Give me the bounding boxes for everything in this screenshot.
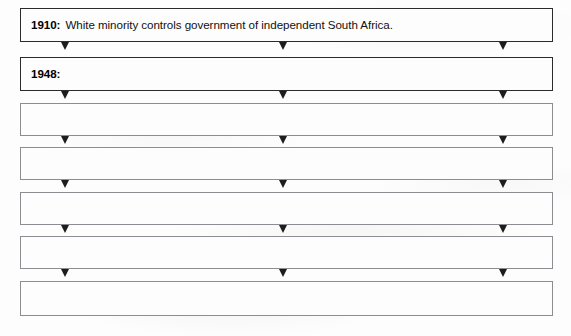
flow-connector: [0, 42, 571, 56]
timeline-year-label: 1948:: [31, 67, 60, 80]
arrow-down-icon: [61, 180, 69, 188]
arrow-down-icon: [61, 91, 69, 99]
timeline-step-box[interactable]: [20, 192, 553, 225]
timeline-step-text: 1910:White minority controls government …: [21, 18, 393, 32]
arrow-down-icon: [279, 225, 287, 233]
timeline-step-box[interactable]: [20, 281, 553, 316]
timeline-step-text: 1948:: [21, 67, 65, 81]
timeline-step-box[interactable]: [20, 147, 553, 180]
arrow-down-icon: [61, 42, 69, 50]
arrow-down-icon: [499, 136, 507, 144]
arrow-down-icon: [279, 269, 287, 277]
timeline-flow-chart: 1910:White minority controls government …: [0, 0, 571, 336]
timeline-step-description: White minority controls government of in…: [65, 18, 392, 31]
timeline-step-box[interactable]: [20, 236, 553, 269]
arrow-down-icon: [499, 180, 507, 188]
arrow-down-icon: [61, 136, 69, 144]
arrow-down-icon: [499, 269, 507, 277]
arrow-down-icon: [499, 91, 507, 99]
arrow-down-icon: [279, 42, 287, 50]
arrow-down-icon: [499, 42, 507, 50]
arrow-down-icon: [499, 225, 507, 233]
arrow-down-icon: [279, 180, 287, 188]
timeline-year-label: 1910:: [31, 18, 60, 31]
timeline-step-box[interactable]: 1948:: [20, 57, 553, 91]
timeline-step-box[interactable]: 1910:White minority controls government …: [20, 8, 553, 42]
arrow-down-icon: [279, 136, 287, 144]
timeline-step-box[interactable]: [20, 103, 553, 136]
arrow-down-icon: [279, 91, 287, 99]
arrow-down-icon: [61, 225, 69, 233]
arrow-down-icon: [61, 269, 69, 277]
